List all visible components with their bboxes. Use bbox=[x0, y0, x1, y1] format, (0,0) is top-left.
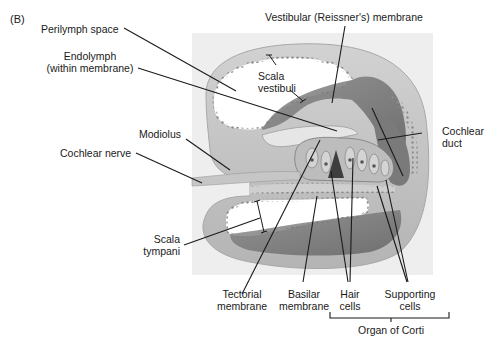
organ-of-corti-bracket bbox=[330, 312, 449, 322]
label-cochlear-nerve: Cochlear nerve bbox=[60, 147, 131, 159]
panel-label: (B) bbox=[10, 13, 25, 25]
label-cochlear-duct: Cochlear duct bbox=[442, 125, 484, 149]
label-tectorial-membrane: Tectorial membrane bbox=[210, 288, 274, 312]
label-scala-tympani: Scala tympani bbox=[130, 233, 180, 257]
label-endolymph: Endolymph (within membrane) bbox=[42, 50, 138, 74]
label-organ-of-corti: Organ of Corti bbox=[351, 324, 431, 336]
label-modiolus: Modiolus bbox=[139, 128, 181, 140]
label-basilar-membrane: Basilar membrane bbox=[272, 288, 336, 312]
label-scala-vestibuli: Scala vestibuli bbox=[258, 70, 296, 94]
label-hair-cells: Hair cells bbox=[332, 288, 368, 312]
basilar-membrane-band bbox=[250, 184, 395, 194]
label-vestibular-membrane: Vestibular (Reissner's) membrane bbox=[265, 11, 423, 23]
label-perilymph-space: Perilymph space bbox=[41, 23, 119, 35]
cochlea-figure: (B) Perilymph space Endolymph (within me… bbox=[0, 0, 499, 344]
label-supporting-cells: Supporting cells bbox=[378, 288, 442, 312]
